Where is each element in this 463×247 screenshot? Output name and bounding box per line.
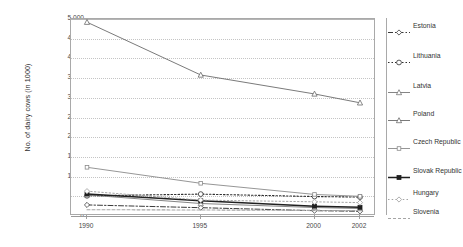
data-point: [358, 205, 362, 209]
data-point: [199, 181, 203, 185]
legend-label: Slovak Republic: [411, 167, 462, 175]
x-axis-tick: 1990: [63, 222, 109, 229]
legend-label: Latvia: [411, 82, 431, 90]
data-point: [84, 202, 89, 207]
legend-symbol-icon: [387, 190, 411, 199]
chart-container: No. of dairy cows (in 1000) 5,0004,5004,…: [0, 0, 463, 247]
legend-symbol-icon: [387, 23, 411, 32]
series-line-poland: [87, 22, 360, 103]
legend-symbol-icon: [387, 53, 411, 62]
legend-label: Poland: [411, 110, 434, 118]
y-axis-title: No. of dairy cows (in 1000): [23, 23, 32, 193]
legend-symbol-icon: [387, 139, 411, 148]
legend-item-slovenia[interactable]: Slovenia: [387, 208, 463, 218]
legend-label: Czech Republic: [411, 138, 461, 146]
plot-area: [70, 18, 375, 215]
legend-item-latvia[interactable]: Latvia: [387, 82, 463, 92]
chart-legend: EstoniaLithuaniaLatviaPolandCzech Republ…: [386, 18, 463, 215]
legend-label: Lithuania: [411, 52, 441, 60]
series-lines: [71, 19, 376, 216]
legend-symbol-icon: [387, 209, 411, 218]
data-point: [84, 19, 89, 24]
data-point: [357, 200, 362, 205]
data-point: [313, 193, 317, 197]
legend-item-poland[interactable]: Poland: [387, 110, 463, 120]
series-line-czech-republic: [87, 167, 360, 196]
x-axis-tick: 2000: [291, 222, 337, 229]
x-axis-tick: 1995: [177, 222, 223, 229]
data-point: [358, 195, 362, 199]
gridline: [71, 216, 374, 217]
legend-item-slovak-republic[interactable]: Slovak Republic: [387, 167, 463, 177]
legend-item-hungary[interactable]: Hungary: [387, 189, 463, 199]
data-point: [198, 72, 203, 77]
legend-item-estonia[interactable]: Estonia: [387, 22, 463, 32]
legend-item-lithuania[interactable]: Lithuania: [387, 52, 463, 62]
data-point: [85, 166, 89, 170]
legend-label: Slovenia: [411, 208, 439, 216]
x-axis-tick: 2002: [336, 222, 382, 229]
legend-symbol-icon: [387, 168, 411, 177]
legend-label: Estonia: [411, 22, 436, 30]
legend-symbol-icon: [387, 83, 411, 92]
legend-label: Hungary: [411, 189, 439, 197]
legend-symbol-icon: [387, 111, 411, 120]
data-point: [198, 192, 203, 197]
series-line-slovenia: [87, 210, 360, 211]
data-point: [312, 199, 317, 204]
legend-item-czech-republic[interactable]: Czech Republic: [387, 138, 463, 148]
